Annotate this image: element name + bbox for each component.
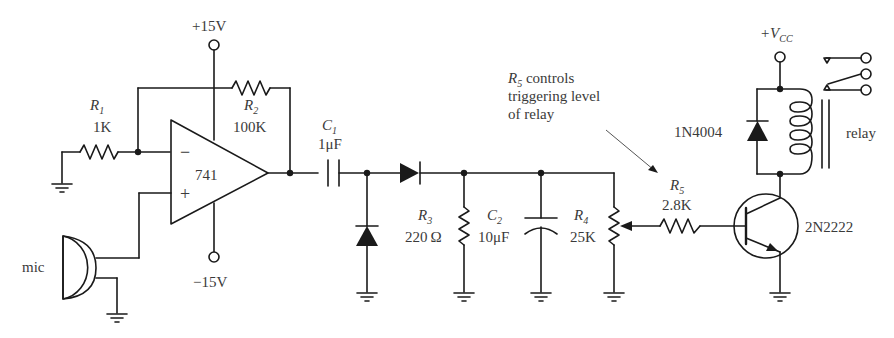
c1-value: 1μF xyxy=(318,136,342,152)
transistor-label: 2N2222 xyxy=(805,219,853,235)
capacitor-c1: C1 1μF xyxy=(318,117,400,186)
microphone: mic xyxy=(22,193,171,313)
r2-name: R2 xyxy=(243,97,258,116)
ground-icon xyxy=(357,293,377,301)
annotation-arrow xyxy=(606,130,654,170)
relay-coil: relay xyxy=(780,89,876,174)
ground-icon xyxy=(604,293,624,301)
vneg-terminal xyxy=(209,252,219,262)
relay-contacts xyxy=(824,53,871,95)
r3-value: 220 Ω xyxy=(405,229,442,245)
vcc-label: +VCC xyxy=(760,25,793,44)
noninverting-input-sign: + xyxy=(180,184,190,204)
vpos-terminal xyxy=(209,40,219,50)
note-line1: R5 controls xyxy=(507,70,574,89)
resistor-r3: R3 220 Ω xyxy=(405,173,469,292)
junction-dot xyxy=(287,170,293,176)
diode-d2 xyxy=(400,162,614,184)
capacitor-c2: C2 10μF xyxy=(478,173,557,292)
opamp-label: 741 xyxy=(195,167,218,183)
c2-value: 10μF xyxy=(478,229,509,245)
potentiometer-r4: R4 25K xyxy=(570,173,660,292)
ground-icon xyxy=(531,293,551,301)
transistor-2n2222: 2N2222 xyxy=(734,174,853,292)
inverting-input-sign: − xyxy=(180,142,190,162)
flyback-diode-label: 1N4004 xyxy=(674,124,723,140)
resistor-r5: R5 2.8K xyxy=(660,177,746,233)
mic-label: mic xyxy=(22,259,45,275)
r5-name: R5 xyxy=(669,177,684,196)
note-line3: of relay xyxy=(508,106,555,122)
circuit-diagram: +15V R1 1K R2 100K − + 741 xyxy=(0,0,894,338)
r5-annotation: R5 controls triggering level of relay xyxy=(507,70,658,173)
ground-icon xyxy=(52,184,72,192)
ground-icon xyxy=(770,293,790,301)
r1-name: R1 xyxy=(89,97,104,116)
note-line2: triggering level xyxy=(508,88,600,104)
r4-value: 25K xyxy=(570,229,596,245)
opamp-741: − + 741 −15V xyxy=(171,120,318,290)
r4-name: R4 xyxy=(573,207,588,226)
c2-name: C2 xyxy=(487,207,502,226)
diode-1n4004: 1N4004 xyxy=(674,89,780,174)
r1-value: 1K xyxy=(93,119,112,135)
c1-name: C1 xyxy=(322,117,337,136)
vcc-terminal xyxy=(775,52,785,62)
vpos-label: +15V xyxy=(192,18,226,34)
resistor-r1: R1 1K xyxy=(62,97,170,183)
ground-icon xyxy=(107,314,127,322)
vneg-label: −15V xyxy=(193,274,227,290)
ground-icon xyxy=(454,293,474,301)
vpos-supply: +15V xyxy=(192,18,226,140)
diode-d1 xyxy=(356,173,378,292)
r5-value: 2.8K xyxy=(662,197,692,213)
relay-label: relay xyxy=(846,125,876,141)
vcc-supply: +VCC xyxy=(760,25,793,177)
r3-name: R3 xyxy=(417,207,432,226)
r2-value: 100K xyxy=(233,119,267,135)
